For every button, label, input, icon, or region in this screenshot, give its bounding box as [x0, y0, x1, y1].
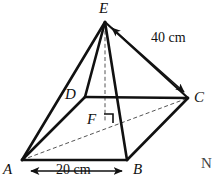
vertex-label-C: C [194, 90, 204, 105]
dimension-label-40cm: 40 cm [151, 31, 186, 45]
edge-B-C [127, 98, 188, 160]
vertex-label-A: A [3, 162, 12, 177]
vertex-label-E: E [99, 1, 108, 16]
page-margin-text: N [201, 156, 212, 171]
figure-canvas: E D C A B F 40 cm 20 cm N [0, 0, 215, 181]
edge-E-B [105, 22, 127, 160]
pyramid-diagram-svg [0, 0, 215, 181]
vertex-label-F: F [87, 112, 96, 127]
edge-E-D [85, 22, 105, 97]
edge-E-A [22, 22, 105, 160]
vertex-label-B: B [133, 162, 142, 177]
edge-A-C-diagonal [22, 98, 188, 160]
dimension-label-20cm: 20 cm [56, 163, 91, 177]
vertex-label-D: D [65, 87, 76, 102]
edge-D-C [85, 97, 188, 98]
